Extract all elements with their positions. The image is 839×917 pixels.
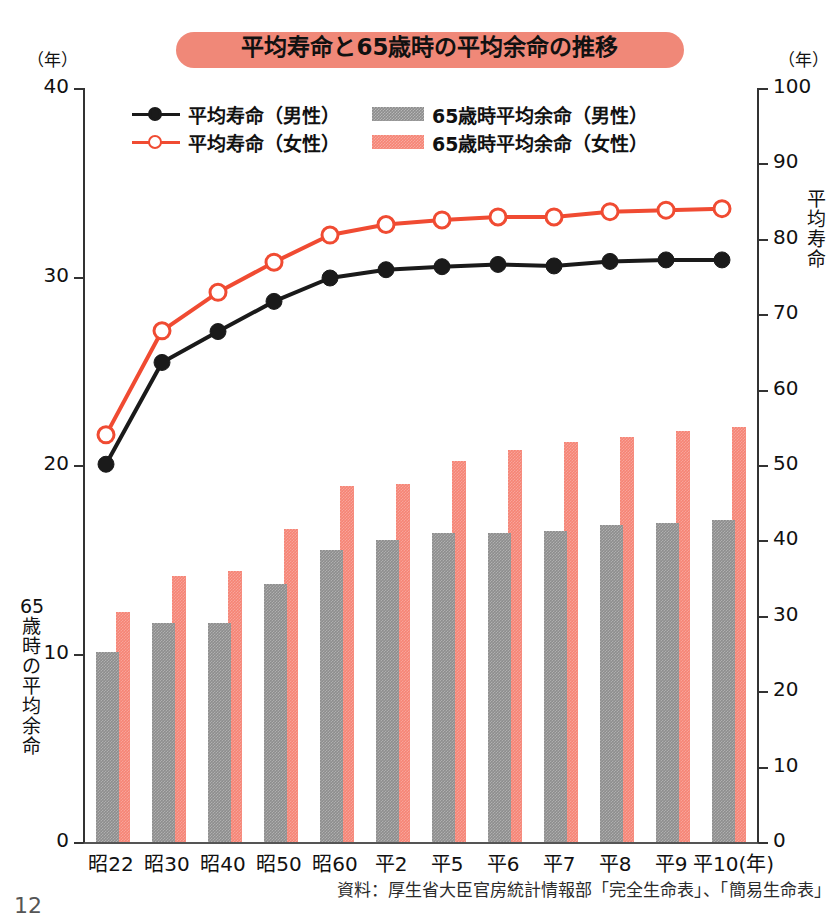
data-point-female [378, 216, 394, 232]
axis-tick-label: 0 [773, 828, 786, 852]
axis-tick [759, 767, 768, 769]
right-axis-unit-label: （年） [778, 46, 829, 71]
axis-tick [759, 390, 768, 392]
bar-swatch-gray-icon [372, 107, 424, 121]
axis-tick [74, 277, 83, 279]
axis-tick [759, 616, 768, 618]
data-point-female [210, 284, 226, 300]
axis-title-char: 命 [805, 250, 827, 270]
source-note: 資料：厚生省大臣官房統計情報部「完全生命表」、「簡易生命表」 [337, 876, 831, 901]
data-point-female [154, 323, 170, 339]
axis-tick [759, 540, 768, 542]
data-point-male [546, 258, 562, 274]
line-marker-filled-icon [132, 105, 180, 123]
axis-tick [759, 88, 768, 90]
axis-title-char: 寿 [805, 230, 827, 250]
axis-tick-label: 30 [773, 602, 798, 626]
data-point-male [322, 270, 338, 286]
axis-tick [759, 465, 768, 467]
axis-title-char: 65 [20, 597, 42, 617]
axis-tick [759, 691, 768, 693]
data-point-male [154, 354, 170, 370]
data-point-female [602, 204, 618, 220]
data-point-female [714, 201, 730, 217]
data-point-male [602, 253, 618, 269]
data-point-female [98, 427, 114, 443]
legend-label: 平均寿命（男性） [188, 101, 340, 128]
axis-title-char: 歳 [20, 617, 42, 637]
data-point-female [266, 254, 282, 270]
legend-item-life-expectancy-male: 平均寿命（男性） [132, 101, 372, 128]
page-number: 12 [14, 893, 42, 917]
axis-title-char: の [20, 657, 42, 677]
axis-title-char: 平 [805, 190, 827, 210]
axis-tick [759, 163, 768, 165]
data-point-female [546, 209, 562, 225]
data-point-female [322, 227, 338, 243]
axis-tick-label: 80 [773, 225, 798, 249]
axis-tick [74, 465, 83, 467]
axis-tick-label: 40 [773, 526, 798, 550]
data-point-male [378, 262, 394, 278]
axis-tick-label: 10 [773, 753, 798, 777]
data-point-male [434, 259, 450, 275]
line-female [106, 209, 722, 435]
axis-tick [74, 842, 83, 844]
axis-tick-label: 10 [44, 640, 69, 664]
axis-tick-label: 30 [44, 263, 69, 287]
axis-title-char: 均 [20, 697, 42, 717]
x-axis-labels: 昭22昭30昭40昭50昭60平2平5平6平7平8平9平10(年) [83, 848, 755, 878]
axis-tick-label: 40 [44, 74, 69, 98]
plot-area: 403020100 1009080706050403020100 [83, 88, 759, 844]
legend-row: 平均寿命（男性） 65歳時平均余命（男性） [132, 100, 732, 128]
axis-tick [74, 654, 83, 656]
axis-title-char: 余 [20, 717, 42, 737]
axis-title-char: 平 [20, 677, 42, 697]
data-point-female [434, 212, 450, 228]
data-point-male [266, 293, 282, 309]
axis-tick-label: 50 [773, 451, 798, 475]
right-axis-title: 平均寿命 [805, 190, 827, 270]
legend-item-remaining-life-female: 65歳時平均余命（女性） [372, 129, 648, 156]
line-marker-open-icon [132, 133, 180, 151]
axis-title-char: 命 [20, 737, 42, 757]
data-point-male [714, 252, 730, 268]
left-axis-title: 65歳時の平均余命 [20, 597, 42, 757]
data-point-male [658, 252, 674, 268]
page-title: 平均寿命と65歳時の平均余命の推移 [176, 29, 684, 65]
legend-row: 平均寿命（女性） 65歳時平均余命（女性） [132, 128, 732, 156]
axis-tick-label: 0 [56, 828, 69, 852]
axis-tick-label: 60 [773, 376, 798, 400]
legend-label: 平均寿命（女性） [188, 129, 340, 156]
data-point-female [490, 209, 506, 225]
bar-swatch-pink-icon [372, 135, 424, 149]
legend-label: 65歳時平均余命（男性） [432, 101, 648, 128]
axis-tick [759, 314, 768, 316]
axis-tick-label: 20 [44, 451, 69, 475]
data-point-male [490, 256, 506, 272]
data-point-male [98, 456, 114, 472]
axis-tick [759, 842, 768, 844]
lines-layer [85, 88, 757, 842]
axis-title-char: 時 [20, 637, 42, 657]
left-axis-unit-label: （年） [27, 46, 78, 71]
axis-tick-label: 100 [773, 74, 811, 98]
legend-item-remaining-life-male: 65歳時平均余命（男性） [372, 101, 648, 128]
line-male [106, 260, 722, 464]
x-axis-label: 平10(年) [693, 848, 761, 877]
axis-tick-label: 20 [773, 677, 798, 701]
axis-title-char: 均 [805, 210, 827, 230]
axis-tick-label: 70 [773, 300, 798, 324]
axis-tick-label: 90 [773, 149, 798, 173]
chart-legend: 平均寿命（男性） 65歳時平均余命（男性） 平均寿命（女性） 65歳時平均余命（… [132, 100, 732, 156]
legend-label: 65歳時平均余命（女性） [432, 129, 648, 156]
data-point-male [210, 324, 226, 340]
data-point-female [658, 202, 674, 218]
axis-tick [759, 239, 768, 241]
axis-tick [74, 88, 83, 90]
legend-item-life-expectancy-female: 平均寿命（女性） [132, 129, 372, 156]
